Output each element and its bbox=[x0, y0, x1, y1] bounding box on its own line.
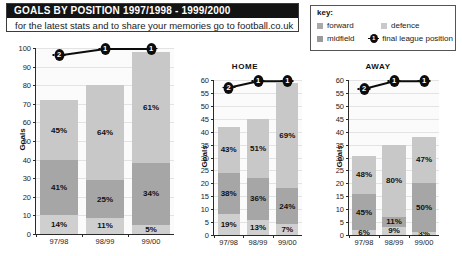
league-position-line bbox=[36, 48, 174, 234]
y-axis-tick-label: 50 bbox=[201, 101, 209, 110]
league-position-marker: 2 bbox=[53, 49, 66, 61]
league-position-marker: 2 bbox=[222, 82, 235, 94]
plot-area: 0510152025303540455055606%45%48%97/989%1… bbox=[348, 80, 439, 236]
chart-title: AWAY bbox=[312, 62, 444, 71]
plot-area: 05101520253035404550556019%38%43%97/9813… bbox=[213, 80, 302, 236]
swatch-forward-icon bbox=[317, 23, 323, 29]
y-axis-tick-label: 20 bbox=[23, 192, 31, 201]
league-position-marker: 1 bbox=[281, 75, 294, 87]
x-axis-tick-label: 97/98 bbox=[214, 238, 243, 247]
y-axis-tick-label: 50 bbox=[336, 101, 344, 110]
y-axis-tick-label: 15 bbox=[201, 192, 209, 201]
plot-area: 010203040506070809010014%41%45%97/9811%2… bbox=[35, 48, 174, 235]
page-subtitle: for the latest stats and to share your m… bbox=[15, 19, 293, 32]
legend-item-final-league-position: 1 final league position bbox=[368, 34, 453, 43]
y-axis-tick-label: 0 bbox=[27, 230, 31, 239]
y-axis-tick-label: 40 bbox=[336, 127, 344, 136]
league-position-value: 1 bbox=[99, 43, 112, 55]
y-axis-tick-label: 45 bbox=[201, 114, 209, 123]
chart-away-goals: AWAY0510152025303540455055606%45%48%97/9… bbox=[312, 62, 444, 256]
legend-label: forward bbox=[327, 21, 354, 30]
league-position-marker: 1 bbox=[388, 75, 401, 87]
league-position-marker: 1 bbox=[145, 43, 158, 55]
league-position-value: 1 bbox=[252, 75, 265, 87]
y-axis-tick-label: 55 bbox=[201, 88, 209, 97]
page-title: GOALS BY POSITION 1997/1998 - 1999/2000 bbox=[14, 5, 231, 17]
x-axis-tick-label: 99/00 bbox=[273, 238, 302, 247]
x-axis-tick-label: 99/00 bbox=[128, 237, 174, 246]
chart-title: HOME bbox=[183, 62, 307, 71]
y-axis-tick-label: 10 bbox=[336, 205, 344, 214]
y-axis-tick-label: 10 bbox=[23, 211, 31, 220]
y-axis-tick-label: 5 bbox=[340, 218, 344, 227]
y-axis-tick-label: 70 bbox=[23, 99, 31, 108]
league-position-value: 1 bbox=[388, 75, 401, 87]
x-axis-tick-label: 97/98 bbox=[349, 238, 379, 247]
league-position-value: 2 bbox=[358, 83, 371, 95]
y-axis-tick-label: 55 bbox=[336, 88, 344, 97]
legend-title: key: bbox=[317, 8, 333, 17]
legend-row: midfield 1 final league position bbox=[317, 32, 453, 45]
league-position-value: 1 bbox=[418, 75, 431, 87]
league-position-value: 2 bbox=[53, 49, 66, 61]
league-position-marker: 1 bbox=[418, 75, 431, 87]
league-position-marker: 1 bbox=[99, 43, 112, 55]
y-axis-tick-label: 20 bbox=[336, 179, 344, 188]
y-axis-tick-label: 40 bbox=[201, 127, 209, 136]
league-position-marker: 2 bbox=[358, 83, 371, 95]
y-axis-tick-label: 45 bbox=[336, 114, 344, 123]
legend-label: defence bbox=[391, 21, 419, 30]
y-axis-tick-label: 20 bbox=[201, 179, 209, 188]
x-axis-tick-label: 98/99 bbox=[82, 237, 128, 246]
y-axis-tick-label: 0 bbox=[205, 231, 209, 240]
legend-row: forward defence bbox=[317, 19, 453, 32]
x-axis-tick-label: 99/00 bbox=[409, 238, 439, 247]
infographic-root: GOALS BY POSITION 1997/1998 - 1999/2000 … bbox=[0, 0, 462, 256]
league-position-value: 1 bbox=[145, 43, 158, 55]
y-axis-tick-label: 90 bbox=[23, 62, 31, 71]
x-axis-tick-label: 98/99 bbox=[379, 238, 409, 247]
swatch-defence-icon bbox=[381, 23, 387, 29]
y-axis-tick-label: 40 bbox=[23, 155, 31, 164]
y-axis-label: Goals bbox=[200, 145, 209, 167]
league-position-marker: 1 bbox=[252, 75, 265, 87]
legend-item-midfield: midfield bbox=[317, 34, 368, 43]
y-axis-tick-label: 60 bbox=[336, 76, 344, 85]
y-axis-tick-label: 10 bbox=[201, 205, 209, 214]
legend-label: final league position bbox=[382, 34, 453, 43]
league-position-value: 2 bbox=[222, 82, 235, 94]
swatch-midfield-icon bbox=[317, 36, 323, 42]
header-panel: GOALS BY POSITION 1997/1998 - 1999/2000 … bbox=[6, 3, 299, 32]
legend-item-forward: forward bbox=[317, 21, 381, 30]
league-position-marker-icon: 1 bbox=[368, 34, 379, 43]
legend-panel: key: forward defence midfield bbox=[310, 5, 456, 51]
y-axis-label: Goals bbox=[335, 145, 344, 167]
y-axis-tick-label: 0 bbox=[340, 231, 344, 240]
y-axis-tick-label: 30 bbox=[23, 174, 31, 183]
y-axis-tick-label: 100 bbox=[18, 44, 31, 53]
y-axis-tick-label: 60 bbox=[23, 118, 31, 127]
chart-total-goals: 010203040506070809010014%41%45%97/9811%2… bbox=[0, 40, 180, 256]
y-axis-tick-label: 60 bbox=[201, 76, 209, 85]
legend-label: midfield bbox=[327, 34, 355, 43]
chart-home-goals: HOME05101520253035404550556019%38%43%97/… bbox=[183, 62, 307, 256]
x-axis-tick-label: 97/98 bbox=[36, 237, 82, 246]
y-axis-tick-label: 5 bbox=[205, 218, 209, 227]
league-position-value: 1 bbox=[281, 75, 294, 87]
y-axis-label: Goals bbox=[18, 128, 27, 150]
league-position-line bbox=[349, 80, 439, 235]
x-axis-tick-label: 98/99 bbox=[243, 238, 272, 247]
league-position-line bbox=[214, 80, 302, 235]
y-axis-tick-label: 80 bbox=[23, 81, 31, 90]
y-axis-tick-label: 15 bbox=[336, 192, 344, 201]
legend-item-defence: defence bbox=[381, 21, 419, 30]
legend-items: forward defence midfield 1 final bbox=[317, 19, 453, 45]
